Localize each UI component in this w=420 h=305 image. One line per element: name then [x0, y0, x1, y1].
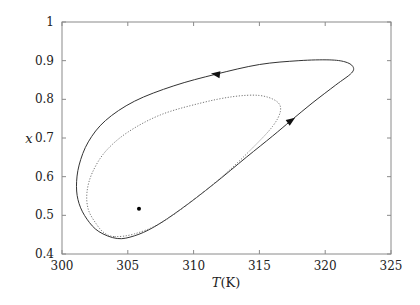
x-tick-label: 310: [182, 259, 205, 273]
y-axis-label: x: [25, 131, 33, 146]
x-tick-label: 320: [314, 259, 337, 273]
series-inner-trajectory: [87, 95, 281, 236]
y-axis-ticks: 0.40.50.60.70.80.91: [35, 15, 391, 261]
chart: 300305310315320325 0.40.50.60.70.80.91 T…: [0, 0, 420, 305]
series-group: [76, 60, 353, 239]
plot-frame: [62, 22, 391, 254]
series-limit-cycle: [76, 60, 353, 239]
x-tick-label: 300: [51, 259, 74, 273]
y-tick-label: 0.4: [35, 247, 54, 261]
x-axis-label: T(K): [212, 275, 241, 290]
x-tick-label: 305: [116, 259, 139, 273]
y-tick-label: 0.6: [35, 170, 54, 184]
x-axis-label-unit: (K): [220, 275, 240, 290]
x-tick-label: 315: [248, 259, 271, 273]
y-tick-label: 0.9: [35, 54, 54, 68]
x-axis-ticks: 300305310315320325: [51, 22, 403, 273]
direction-arrow: [211, 70, 221, 78]
y-tick-label: 0.7: [35, 131, 54, 145]
markers-group: [137, 207, 141, 211]
y-tick-label: 0.5: [35, 208, 54, 222]
point-steady-state: [137, 207, 141, 211]
x-tick-label: 325: [380, 259, 403, 273]
y-tick-label: 0.8: [35, 92, 54, 106]
y-tick-label: 1: [46, 15, 54, 29]
